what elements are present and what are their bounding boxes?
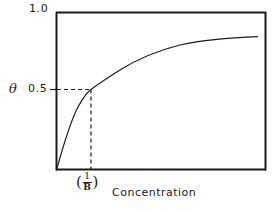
y-axis-tick-label-top: 1.0 — [29, 3, 48, 14]
x-axis-tick-label-one-over-b: ( 1 B ) — [76, 172, 98, 193]
fraction-denominator: B — [82, 183, 92, 193]
plot-canvas — [0, 0, 277, 212]
y-axis-title-theta: θ — [9, 82, 17, 95]
one-over-b-fraction: 1 B — [82, 172, 92, 193]
saturation-curve — [57, 37, 258, 170]
x-axis-title-concentration: Concentration — [112, 187, 196, 198]
saturation-curve-figure: 1.0 θ 0.5 ( 1 B ) Concentration — [0, 0, 277, 212]
x-tick-close-paren: ) — [92, 175, 98, 190]
fraction-numerator: 1 — [83, 172, 91, 182]
x-tick-open-paren: ( — [76, 175, 82, 190]
plot-frame — [56, 12, 266, 171]
y-axis-tick-label-half: 0.5 — [28, 83, 47, 94]
